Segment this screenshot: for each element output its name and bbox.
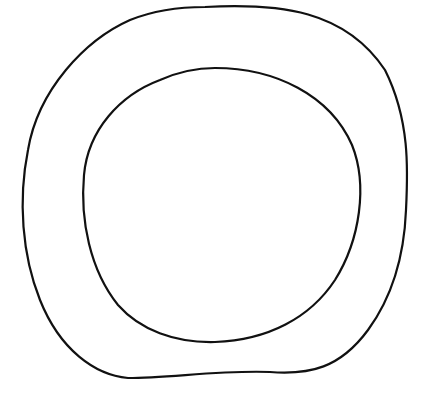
drawing-canvas	[0, 0, 422, 396]
inner-ring-outline	[83, 68, 360, 342]
ring-drawing	[0, 0, 422, 396]
outer-ring-outline	[23, 6, 407, 378]
